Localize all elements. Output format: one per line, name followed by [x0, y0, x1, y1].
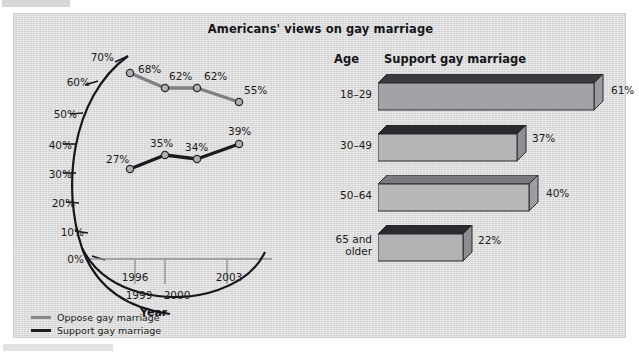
bar-graphic-65-older [378, 225, 488, 267]
bar-value-50-64: 40% [546, 187, 569, 199]
legend-swatch-support-icon [31, 329, 51, 333]
bar-value-65-older: 22% [478, 234, 501, 246]
legend-item-support: Support gay marriage [31, 324, 251, 337]
point-label-oppose-2003: 55% [244, 84, 267, 96]
bar-chart-header-age: Age [334, 52, 359, 66]
bar-category-18-29: 18–29 [324, 89, 372, 101]
bar-category-65-older: 65 and older [316, 234, 372, 257]
bar-value-30-49: 37% [532, 132, 555, 144]
y-tick-label-50: 50% [11, 108, 77, 120]
point-label-support-1996: 27% [106, 153, 129, 165]
y-tick-label-40: 40% [6, 139, 72, 151]
bar-chart: Age Support gay marriage 18–29 61% 30–49 [324, 52, 624, 282]
bar-value-18-29: 61% [611, 84, 634, 96]
y-tick-label-70: 70% [48, 51, 114, 63]
line-chart: 0% 10% 20% 30% 40% 50% 60% 70% 1996 1999… [22, 40, 312, 330]
legend: Oppose gay marriage Support gay marriage [31, 311, 251, 337]
legend-label-oppose: Oppose gay marriage [57, 312, 160, 323]
chart-panel: Americans' views on gay marriage [13, 13, 626, 338]
x-tick-label-2000: 2000 [150, 289, 204, 301]
chart-title: Americans' views on gay marriage [14, 22, 627, 36]
y-tick-label-60: 60% [24, 76, 90, 88]
point-label-oppose-1996: 68% [138, 63, 161, 75]
legend-label-support: Support gay marriage [57, 325, 161, 336]
y-tick-label-10: 10% [18, 226, 84, 238]
y-tick-label-30: 30% [6, 168, 72, 180]
scan-artifact-bottom [3, 344, 113, 351]
point-label-oppose-2000: 62% [204, 70, 227, 82]
bar-category-50-64: 50–64 [324, 190, 372, 202]
bar-row-18-29: 18–29 61% [324, 74, 624, 116]
x-tick-label-1996: 1996 [108, 271, 162, 283]
bar-row-65-older: 65 and older 22% [324, 225, 624, 267]
y-tick-label-0: 0% [26, 253, 84, 265]
bar-graphic-50-64 [378, 175, 553, 217]
bar-category-30-49: 30–49 [324, 140, 372, 152]
legend-item-oppose: Oppose gay marriage [31, 311, 251, 324]
bar-graphic-30-49 [378, 125, 538, 167]
legend-swatch-oppose-icon [31, 316, 51, 320]
figure-page: Americans' views on gay marriage [0, 0, 639, 353]
point-label-support-1999: 35% [150, 137, 173, 149]
scan-artifact-top [2, 0, 70, 7]
y-tick-label-20: 20% [9, 197, 75, 209]
point-label-support-2003: 39% [228, 125, 251, 137]
point-label-oppose-1999: 62% [169, 70, 192, 82]
bar-chart-header-metric: Support gay marriage [384, 52, 526, 66]
point-label-support-2000: 34% [185, 141, 208, 153]
bar-graphic-18-29 [378, 74, 608, 116]
bar-row-50-64: 50–64 40% [324, 175, 624, 217]
bar-row-30-49: 30–49 37% [324, 125, 624, 167]
x-tick-label-2003: 2003 [202, 271, 256, 283]
